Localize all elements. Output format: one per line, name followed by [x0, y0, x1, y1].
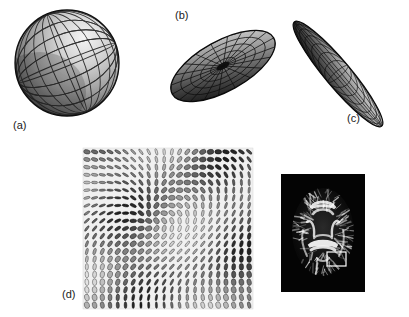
panel-c-label: (c) — [347, 112, 360, 124]
figure-canvas: (a) — [0, 0, 409, 317]
panel-a-label: (a) — [13, 119, 26, 131]
panel-e-dti-brain-slice — [281, 174, 365, 292]
cigar-glyph-icon — [270, 0, 409, 140]
panel-d-glyph-field: (d) — [83, 148, 253, 309]
panel-b-label: (b) — [175, 9, 188, 21]
tensor-field-icon — [83, 148, 253, 309]
brain-slice-icon — [281, 174, 365, 292]
panel-c-prolate-glyph: (c) — [270, 0, 409, 140]
panel-d-label: (d) — [62, 288, 75, 300]
panel-a-isotropic-glyph: (a) — [0, 0, 140, 140]
